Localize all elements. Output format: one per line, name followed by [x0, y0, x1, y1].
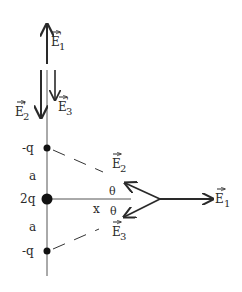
svg-text:': '	[59, 30, 62, 41]
svg-text:3: 3	[66, 106, 72, 117]
svg-text:1: 1	[59, 41, 65, 52]
angle-label-lower: θ	[110, 205, 117, 218]
svg-text:2: 2	[120, 163, 126, 174]
dashed-line-bottom	[53, 229, 99, 249]
svg-text:E: E	[215, 192, 224, 206]
svg-text:3: 3	[120, 231, 126, 242]
spacing-label-upper: a	[29, 169, 36, 183]
charge-label-top: -q	[22, 141, 34, 155]
vector-e3	[124, 199, 160, 217]
label-e1: E 1	[215, 189, 230, 209]
svg-text:': '	[66, 95, 69, 106]
charge-label-bottom: -q	[22, 244, 34, 258]
angle-label-upper: θ	[109, 185, 116, 198]
svg-text:': '	[23, 100, 26, 111]
dashed-line-top	[53, 150, 103, 172]
label-e3-prime: E ' 3	[58, 95, 72, 117]
label-e1-prime: E ' 1	[51, 30, 65, 52]
charge-middle	[42, 194, 53, 205]
label-e2-prime: E ' 2	[15, 100, 29, 122]
charge-bottom	[44, 248, 51, 255]
label-e2: E 2	[112, 154, 126, 174]
distance-label-x: x	[93, 202, 100, 216]
svg-text:1: 1	[224, 198, 230, 209]
charge-label-middle: 2q	[20, 192, 36, 206]
vector-e2	[125, 183, 160, 199]
charge-top	[44, 145, 51, 152]
dipole-field-diagram: -q 2q -q a a x θ θ E 1 E 2 E 3 E ' 1 E '…	[0, 0, 242, 292]
spacing-label-lower: a	[29, 220, 36, 234]
label-e3: E 3	[112, 222, 126, 242]
svg-text:2: 2	[23, 111, 29, 122]
